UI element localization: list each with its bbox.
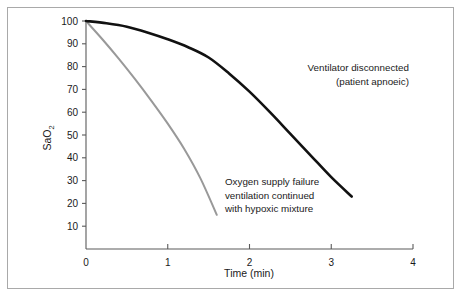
y-tick-label: 40	[67, 152, 79, 163]
x-axis-ticks	[168, 244, 413, 249]
x-tick-label: 4	[410, 257, 416, 268]
figure-border-frame: 102030405060708090100 01234 Ventilator d…	[7, 7, 454, 289]
y-tick-label: 10	[67, 221, 79, 232]
y-tick-label: 50	[67, 130, 79, 141]
annotation-oxygen-failure-line: ventilation continued	[225, 190, 314, 201]
y-tick-label: 30	[67, 175, 79, 186]
annotation-ventilator-line: Ventilator disconnected	[308, 62, 409, 73]
y-tick-label: 70	[67, 84, 79, 95]
chart-plot-area: 102030405060708090100 01234 Ventilator d…	[8, 8, 453, 288]
annotation-oxygen-failure: Oxygen supply failureventilation continu…	[224, 176, 320, 214]
annotation-oxygen-failure-line: with hypoxic mixture	[224, 203, 314, 214]
annotation-oxygen-failure-line: Oxygen supply failure	[225, 176, 320, 187]
y-tick-label: 80	[67, 61, 79, 72]
x-tick-label: 1	[165, 257, 171, 268]
chart-annotations: Ventilator disconnected(patient apnoeic)…	[224, 62, 409, 214]
y-axis-tick-labels: 102030405060708090100	[61, 16, 78, 232]
y-tick-label: 20	[67, 198, 79, 209]
x-tick-label: 0	[83, 257, 89, 268]
annotation-ventilator: Ventilator disconnected(patient apnoeic)	[308, 62, 409, 87]
y-axis-title: SaO2	[41, 125, 56, 150]
series-line-ventilator-disconnected	[86, 21, 352, 197]
y-tick-label: 90	[67, 38, 79, 49]
figure-root: 102030405060708090100 01234 Ventilator d…	[0, 0, 463, 298]
y-tick-label: 60	[67, 107, 79, 118]
x-tick-label: 3	[328, 257, 334, 268]
annotation-ventilator-line: (patient apnoeic)	[336, 76, 409, 87]
y-axis-ticks	[82, 21, 86, 226]
y-tick-label: 100	[61, 16, 78, 27]
x-axis-title: Time (min)	[224, 267, 274, 279]
